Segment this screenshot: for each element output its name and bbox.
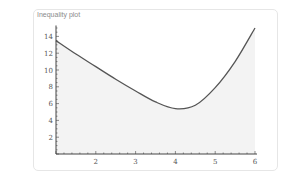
y-tick-label: 6 — [49, 100, 54, 108]
y-tick-label: 8 — [49, 83, 53, 91]
x-tick-label: 2 — [94, 158, 98, 166]
x-tick-label: 4 — [173, 158, 178, 166]
y-tick-label: 14 — [44, 33, 53, 41]
shaded-region — [56, 28, 255, 154]
x-tick-label: 5 — [213, 158, 217, 166]
y-tick-label: 4 — [49, 117, 54, 125]
y-tick-label: 2 — [49, 134, 53, 142]
x-tick-label: 6 — [253, 158, 258, 166]
y-tick-label: 10 — [44, 67, 53, 75]
x-tick-label: 3 — [133, 158, 137, 166]
y-tick-label: 12 — [44, 50, 53, 58]
inequality-chart: 234562468101214 — [0, 0, 282, 177]
